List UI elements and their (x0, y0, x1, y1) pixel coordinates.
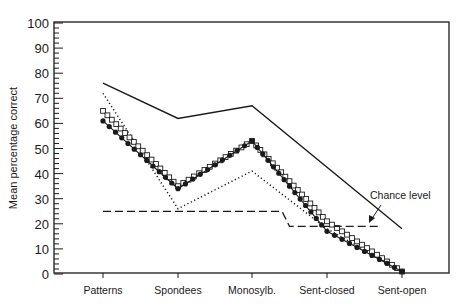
filled-circle-marker (119, 135, 124, 140)
filled-circle-marker (392, 265, 397, 270)
filled-circle-marker (157, 169, 162, 174)
filled-circle-marker (377, 257, 382, 262)
x-tick-label: Patterns (83, 284, 122, 296)
filled-circle-marker (100, 118, 105, 123)
open-square-marker (325, 219, 330, 224)
open-square-marker (360, 242, 365, 247)
filled-circle-marker (298, 196, 303, 201)
y-tick-label: 20 (35, 217, 49, 232)
line-chart: 0102030405060708090100 PatternsSpondeesM… (0, 0, 467, 306)
filled-circle-marker (332, 233, 337, 238)
filled-circle-marker (265, 158, 270, 163)
open-square-marker (340, 229, 345, 234)
filled-circle-marker (399, 269, 405, 275)
x-tick-label: Spondees (154, 284, 201, 296)
filled-circle-marker (183, 181, 188, 186)
filled-circle-marker (190, 177, 195, 182)
y-tick-label: 10 (35, 242, 49, 257)
y-tick-label: 40 (35, 167, 49, 182)
filled-circle-marker (362, 249, 367, 254)
filled-circle-marker (303, 203, 308, 208)
x-axis: PatternsSpondeesMonosylb.Sent-closedSent… (83, 273, 426, 296)
y-axis-title: Mean percentage correct (7, 87, 19, 209)
x-tick-label: Sent-closed (299, 284, 355, 296)
y-tick-label: 90 (35, 41, 49, 56)
open-square-marker (330, 222, 335, 227)
filled-circle-marker (220, 157, 225, 162)
filled-circle-marker (282, 177, 287, 182)
filled-circle-marker (235, 148, 240, 153)
filled-circle-marker (125, 141, 130, 146)
filled-circle-marker (198, 172, 203, 177)
filled-circle-marker (169, 180, 174, 185)
filled-circle-marker (163, 175, 168, 180)
filled-circle-marker (384, 261, 389, 266)
plot-frame (54, 22, 449, 273)
y-axis: 0102030405060708090100 (27, 16, 63, 282)
filled-circle-marker (205, 167, 210, 172)
open-square-marker (355, 239, 360, 244)
filled-circle-marker (242, 143, 247, 148)
filled-circle-marker (314, 216, 319, 221)
x-tick-label: Monosylb. (228, 284, 276, 296)
series-dotted (103, 93, 402, 271)
filled-circle-marker (107, 124, 112, 129)
filled-circle-marker (354, 245, 359, 250)
series-chance-level (103, 211, 380, 226)
filled-circle-marker (260, 151, 265, 156)
filled-circle-marker (150, 163, 155, 168)
filled-circle-marker (347, 241, 352, 246)
filled-circle-marker (144, 158, 149, 163)
filled-circle-marker (339, 237, 344, 242)
open-square-marker (375, 252, 380, 257)
filled-circle-marker (271, 164, 276, 169)
y-tick-label: 50 (35, 142, 49, 157)
y-tick-label: 70 (35, 91, 49, 106)
y-tick-label: 80 (35, 66, 49, 81)
chance-level-annotation: Chance level (370, 189, 431, 201)
filled-circle-marker (287, 184, 292, 189)
filled-circle-marker (227, 153, 232, 158)
open-square-marker (345, 232, 350, 237)
filled-circle-marker (308, 209, 313, 214)
filled-circle-marker (255, 145, 260, 150)
filled-circle-marker (212, 162, 217, 167)
plot-series (100, 83, 404, 274)
y-tick-label: 30 (35, 192, 49, 207)
filled-circle-marker (369, 253, 374, 258)
filled-circle-marker (249, 138, 254, 143)
x-tick-label: Sent-open (378, 284, 427, 296)
y-tick-label: 100 (27, 16, 49, 31)
filled-circle-marker (132, 147, 137, 152)
filled-circle-marker (324, 229, 329, 234)
filled-circle-marker (138, 152, 143, 157)
filled-circle-marker (276, 171, 281, 176)
open-square-marker (350, 236, 355, 241)
y-tick-label: 0 (42, 267, 49, 282)
filled-circle-marker (292, 190, 297, 195)
filled-circle-marker (175, 186, 180, 191)
filled-circle-marker (113, 130, 118, 135)
y-tick-label: 60 (35, 116, 49, 131)
